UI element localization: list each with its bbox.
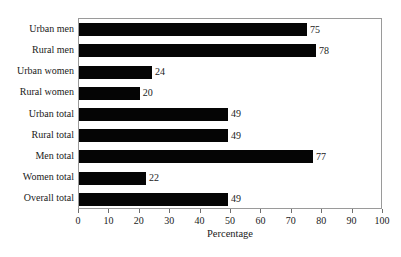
bar: [79, 66, 152, 79]
x-axis-title: Percentage: [78, 227, 382, 241]
y-axis-label: Women total: [0, 170, 74, 184]
y-axis-category-labels: Urban menRural menUrban womenRural women…: [0, 18, 74, 209]
bar-row: 49: [79, 189, 381, 210]
bar-value-label: 77: [316, 150, 326, 164]
bar-row: 49: [79, 104, 381, 125]
y-axis-label: Urban women: [0, 64, 74, 78]
bar-row: 24: [79, 61, 381, 82]
bar: [79, 23, 307, 36]
bar: [79, 108, 228, 121]
x-axis-tick: [200, 209, 201, 213]
bar: [79, 193, 228, 206]
x-axis-tick: [352, 209, 353, 213]
x-axis-tick-label: 60: [255, 214, 265, 227]
x-axis-tick-label: 80: [316, 214, 326, 227]
y-axis-label: Urban total: [0, 107, 74, 121]
bar: [79, 87, 140, 100]
x-axis-tick: [230, 209, 231, 213]
bar-value-label: 75: [310, 23, 320, 37]
x-axis-tick-label: 100: [375, 214, 390, 227]
bar: [79, 172, 146, 185]
x-axis-tick-label: 50: [225, 214, 235, 227]
bar-value-label: 49: [231, 129, 241, 143]
x-axis-tick: [321, 209, 322, 213]
bar-value-label: 22: [149, 171, 159, 185]
x-axis-tick: [382, 209, 383, 213]
y-axis-label: Rural total: [0, 128, 74, 142]
bar-row: 78: [79, 40, 381, 61]
bar: [79, 129, 228, 142]
y-axis-label: Overall total: [0, 191, 74, 205]
bar: [79, 150, 313, 163]
x-axis-tick-label: 30: [164, 214, 174, 227]
bar-value-label: 49: [231, 192, 241, 206]
x-axis-tick-label: 40: [195, 214, 205, 227]
plot-area: 757824204949772249: [78, 18, 382, 209]
x-axis-tick: [78, 209, 79, 213]
x-axis-tick-label: 0: [76, 214, 81, 227]
x-axis-tick: [169, 209, 170, 213]
y-axis-label: Men total: [0, 149, 74, 163]
bar-value-label: 20: [143, 86, 153, 100]
bar-value-label: 49: [231, 107, 241, 121]
y-axis-label: Urban men: [0, 22, 74, 36]
bar-row: 20: [79, 83, 381, 104]
bar: [79, 44, 316, 57]
x-axis-tick-label: 90: [347, 214, 357, 227]
bar-row: 49: [79, 125, 381, 146]
x-axis-tick: [291, 209, 292, 213]
x-axis-tick: [108, 209, 109, 213]
bar-value-label: 24: [155, 65, 165, 79]
y-axis-label: Rural women: [0, 85, 74, 99]
x-axis-tick-label: 20: [134, 214, 144, 227]
bar-value-label: 78: [319, 44, 329, 58]
bar-row: 75: [79, 19, 381, 40]
x-axis-tick-label: 70: [286, 214, 296, 227]
bar-row: 77: [79, 146, 381, 167]
x-axis-tick-label: 10: [103, 214, 113, 227]
x-axis-tick: [260, 209, 261, 213]
bar-chart: Urban menRural menUrban womenRural women…: [0, 0, 401, 257]
bar-row: 22: [79, 168, 381, 189]
x-axis-tick: [139, 209, 140, 213]
y-axis-label: Rural men: [0, 43, 74, 57]
